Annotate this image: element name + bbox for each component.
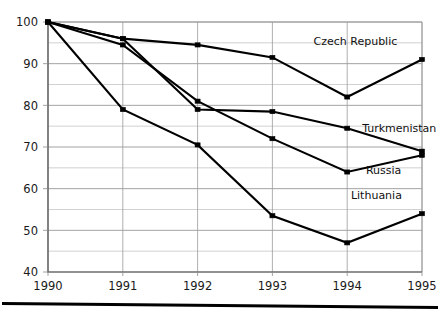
y-tick-label-60: 60	[23, 182, 38, 196]
data-point-czech-republic-1992	[195, 43, 200, 47]
series-label-turkmenistan: Turkmenistan	[361, 122, 436, 135]
x-tick-label-1995: 1995	[407, 279, 436, 293]
data-point-turkmenistan-1991	[120, 43, 125, 47]
y-tick-label-80: 80	[23, 99, 38, 113]
data-point-czech-republic-1994	[345, 95, 350, 99]
data-point-czech-republic-1995	[420, 57, 425, 61]
data-point-lithuania-1991	[120, 107, 125, 111]
series-label-lithuania: Lithuania	[351, 189, 402, 202]
data-point-russia-1993	[270, 109, 275, 113]
y-tick-label-50: 50	[23, 224, 38, 238]
data-point-lithuania-1994	[345, 241, 350, 245]
data-point-turkmenistan-1993	[270, 137, 275, 141]
y-tick-label-100: 100	[16, 15, 38, 29]
data-point-russia-1992	[195, 107, 200, 111]
data-point-turkmenistan-1992	[195, 99, 200, 103]
line-chart-figure: 100908070605040 199019911992199319941995…	[0, 0, 441, 316]
x-tick-label-1992: 1992	[183, 279, 212, 293]
x-tick-label-1993: 1993	[258, 279, 287, 293]
y-tick-label-70: 70	[23, 140, 38, 154]
data-point-lithuania-1993	[270, 214, 275, 218]
data-point-lithuania-1992	[195, 143, 200, 147]
x-tick-label-1991: 1991	[108, 279, 137, 293]
data-point-russia-1991	[120, 37, 125, 41]
data-point-russia-1994	[345, 126, 350, 130]
data-point-turkmenistan-1994	[345, 170, 350, 174]
series-label-czech-republic: Czech Republic	[314, 35, 398, 48]
data-point-lithuania-1990	[46, 20, 51, 24]
chart-canvas: 100908070605040 199019911992199319941995…	[0, 0, 441, 316]
data-point-czech-republic-1993	[270, 55, 275, 59]
y-tick-label-90: 90	[23, 57, 38, 71]
data-point-lithuania-1995	[420, 212, 425, 216]
y-tick-label-40: 40	[23, 265, 38, 279]
x-tick-label-1994: 1994	[333, 279, 362, 293]
series-label-russia: Russia	[366, 164, 401, 177]
data-point-turkmenistan-1995	[420, 153, 425, 157]
data-point-russia-1995	[420, 149, 425, 153]
x-tick-label-1990: 1990	[33, 279, 62, 293]
